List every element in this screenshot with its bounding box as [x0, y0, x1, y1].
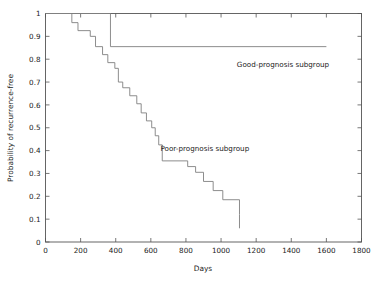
x-tick-label: 1200 — [247, 246, 266, 255]
y-tick-label: 0.4 — [29, 146, 41, 155]
x-tick-label: 0 — [43, 246, 48, 255]
y-axis-title: Probability of recurrence-free — [6, 74, 15, 182]
x-tick-label: 1600 — [317, 246, 336, 255]
chart-figure: 020040060080010001200140016001800 00.10.… — [0, 0, 380, 281]
y-tick-label: 0.5 — [29, 123, 40, 132]
x-tick-label: 400 — [109, 246, 123, 255]
x-axis-title: Days — [194, 264, 213, 273]
x-tick-label: 200 — [74, 246, 88, 255]
y-tick-label: 0.9 — [29, 32, 41, 41]
x-tick-label: 1800 — [352, 246, 371, 255]
survival-plot-svg: 020040060080010001200140016001800 00.10.… — [0, 0, 380, 281]
y-tick-label: 0.7 — [29, 78, 40, 87]
y-tick-label: 1 — [36, 9, 41, 18]
y-tick-label: 0.2 — [29, 192, 40, 201]
y-tick-label: 0 — [36, 238, 41, 247]
y-tick-label: 0.6 — [29, 101, 41, 110]
x-tick-label: 800 — [179, 246, 193, 255]
x-tick-label: 1000 — [212, 246, 231, 255]
good-prognosis-label: Good-prognosis subgroup — [237, 60, 330, 69]
y-tick-label: 0.1 — [29, 215, 40, 224]
chart-background — [0, 0, 380, 281]
y-tick-label: 0.8 — [29, 55, 41, 64]
y-tick-label: 0.3 — [29, 169, 40, 178]
x-tick-label: 600 — [144, 246, 158, 255]
poor-prognosis-label: Poor-prognosis subgroup — [160, 144, 249, 153]
x-tick-label: 1400 — [282, 246, 301, 255]
